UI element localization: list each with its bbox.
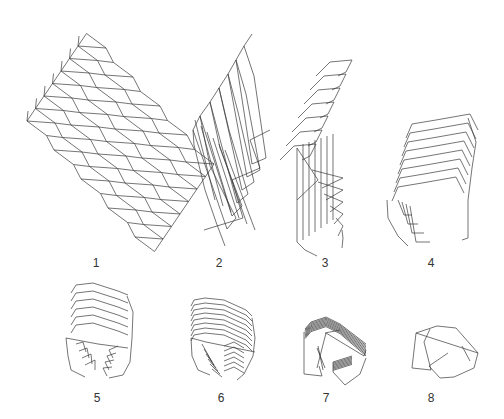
panel-8-final-form [412, 326, 478, 378]
panel-6-compressed [191, 298, 255, 380]
panel-label-2: 2 [209, 256, 229, 270]
panel-4-arched [387, 114, 478, 246]
folding-sequence-diagram [0, 0, 504, 419]
panel-label-4: 4 [421, 256, 441, 270]
panel-label-8: 8 [421, 391, 441, 405]
panel-label-1: 1 [86, 256, 106, 270]
panel-2-partially-folded [193, 34, 270, 246]
panel-label-7: 7 [316, 391, 336, 405]
panel-3-curled [280, 60, 352, 256]
panel-7-collapsed [304, 317, 366, 385]
panel-1-flat-sheet [27, 34, 214, 252]
panel-label-3: 3 [315, 256, 335, 270]
panel-label-6: 6 [211, 391, 231, 405]
panel-5-closing [66, 283, 133, 378]
panel-label-5: 5 [87, 391, 107, 405]
